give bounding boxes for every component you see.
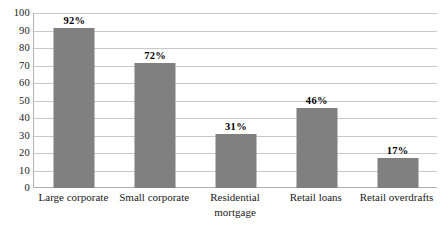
y-tick-label: 100	[0, 8, 30, 18]
y-tick-label: 80	[0, 43, 30, 53]
y-tick-label: 50	[0, 96, 30, 106]
x-tick-label: Large corporate	[33, 190, 114, 205]
x-tick-label: Small corporate	[114, 190, 195, 205]
plot-area: 92% 72% 31% 46% 17%	[33, 13, 437, 188]
bar-retail-loans	[296, 108, 337, 188]
bar-group: 46%	[276, 13, 357, 188]
bar-group: 17%	[357, 13, 438, 188]
x-axis: Large corporate Small corporate Resident…	[33, 190, 437, 227]
bar-group: 92%	[34, 13, 115, 188]
y-tick-label: 70	[0, 61, 30, 71]
bar-retail-overdrafts	[377, 158, 418, 188]
bar-group: 72%	[115, 13, 196, 188]
x-tick-label: Residential mortgage	[195, 190, 276, 220]
y-axis: 100 90 80 70 60 50 40 30 20 10 0	[0, 0, 30, 227]
bar-value-label: 31%	[225, 121, 247, 132]
y-tick-label: 0	[0, 183, 30, 193]
x-tick-label: Retail overdrafts	[356, 190, 437, 205]
y-tick-label: 60	[0, 78, 30, 88]
bar-value-label: 72%	[144, 50, 166, 61]
y-tick-label: 30	[0, 131, 30, 141]
x-tick-label: Retail loans	[275, 190, 356, 205]
bar-group: 31%	[196, 13, 277, 188]
y-tick-label: 40	[0, 113, 30, 123]
bar-small-corporate	[135, 63, 176, 188]
bar-series: 92% 72% 31% 46% 17%	[34, 13, 437, 188]
bar-chart: 100 90 80 70 60 50 40 30 20 10 0 92%	[0, 0, 444, 227]
y-tick-label: 20	[0, 148, 30, 158]
bar-value-label: 92%	[63, 15, 85, 26]
bar-value-label: 17%	[387, 145, 409, 156]
bar-large-corporate	[54, 28, 95, 188]
bar-residential-mortgage	[215, 134, 256, 188]
y-tick-label: 90	[0, 26, 30, 36]
y-tick-label: 10	[0, 166, 30, 176]
bar-value-label: 46%	[306, 95, 328, 106]
